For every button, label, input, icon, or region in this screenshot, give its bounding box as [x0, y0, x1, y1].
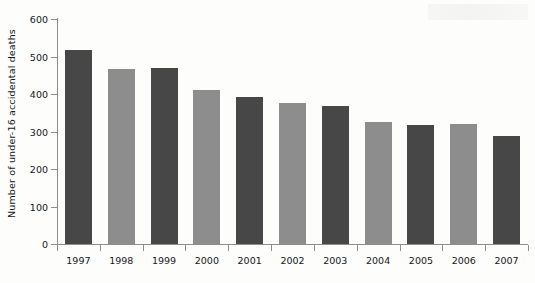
x-axis-tick: [185, 245, 186, 251]
chart-figure: Number of under-16 accidental deaths 010…: [0, 0, 535, 283]
y-axis-tick: [51, 132, 58, 133]
bar-1998: [108, 69, 135, 244]
x-axis-tick-label-1999: 1999: [152, 255, 176, 266]
x-axis-tick-label-2000: 2000: [195, 255, 219, 266]
x-axis-tick-label-2001: 2001: [238, 255, 262, 266]
x-axis-tick: [357, 245, 358, 251]
y-axis-tick: [51, 169, 58, 170]
bar-2001: [236, 97, 263, 244]
x-axis-tick-label-2007: 2007: [494, 255, 518, 266]
x-axis-tick: [314, 245, 315, 251]
x-axis-tick: [400, 245, 401, 251]
y-axis-tick-label: 200: [2, 164, 48, 175]
y-axis-tick-labels: 0100200300400500600: [0, 0, 48, 283]
x-axis-tick: [485, 245, 486, 251]
bar-1997: [65, 50, 92, 244]
bar-2006: [450, 124, 477, 244]
y-axis-tick-label: 0: [2, 239, 48, 250]
x-axis-tick: [57, 245, 58, 251]
bar-2003: [322, 106, 349, 244]
y-axis-tick: [51, 207, 58, 208]
y-axis-tick: [51, 57, 58, 58]
x-axis-tick: [271, 245, 272, 251]
bar-2007: [493, 136, 520, 244]
x-axis-tick-label-2003: 2003: [323, 255, 347, 266]
x-axis-tick: [228, 245, 229, 251]
x-axis-tick-label-2004: 2004: [366, 255, 390, 266]
bar-2004: [365, 122, 392, 244]
x-axis-tick-label-2006: 2006: [452, 255, 476, 266]
x-axis-tick: [528, 245, 529, 251]
x-axis-tick: [442, 245, 443, 251]
y-axis-tick-label: 400: [2, 89, 48, 100]
y-axis-tick-label: 100: [2, 201, 48, 212]
bar-1999: [151, 68, 178, 244]
y-axis-tick-label: 500: [2, 51, 48, 62]
bar-2002: [279, 103, 306, 244]
y-axis-tick: [51, 94, 58, 95]
bar-2005: [407, 125, 434, 244]
y-axis-tick-label: 600: [2, 14, 48, 25]
x-axis-tick-label-2005: 2005: [409, 255, 433, 266]
x-axis-line: [57, 244, 528, 245]
x-axis-tick-label-1998: 1998: [109, 255, 133, 266]
y-axis-tick: [51, 19, 58, 20]
x-axis-tick: [100, 245, 101, 251]
x-axis-tick-label-2002: 2002: [280, 255, 304, 266]
x-axis-tick-label-1997: 1997: [66, 255, 90, 266]
scan-artifact: [428, 4, 528, 20]
bar-2000: [193, 90, 220, 245]
plot-area: [57, 19, 528, 244]
x-axis-tick: [143, 245, 144, 251]
y-axis-tick-label: 300: [2, 126, 48, 137]
